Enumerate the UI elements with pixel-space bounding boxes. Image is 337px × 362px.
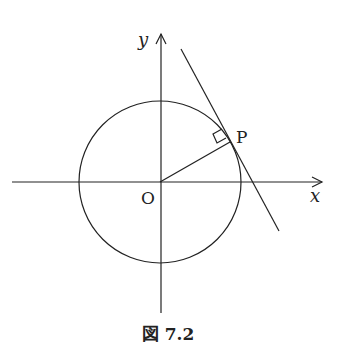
y-axis-label: y (137, 29, 149, 50)
radius-op (160, 142, 230, 182)
point-p-label: P (236, 127, 247, 147)
figure-diagram: y x O P 図 7.2 (0, 0, 337, 362)
figure-caption: 図 7.2 (142, 324, 195, 344)
x-axis-label: x (310, 185, 320, 206)
right-angle-marker (213, 129, 226, 143)
origin-label: O (141, 188, 155, 208)
y-axis (156, 34, 166, 313)
tangent-line (181, 49, 279, 231)
